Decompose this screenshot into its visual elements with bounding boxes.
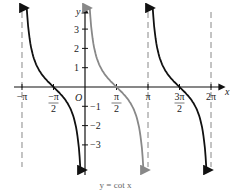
svg-text:−1: −1 — [90, 101, 101, 112]
svg-text:2: 2 — [177, 103, 182, 114]
cot-chart: −π−π2π2π3π22π321−1−2−3 x y O — [0, 0, 231, 194]
svg-text:3π: 3π — [174, 91, 184, 102]
svg-text:2: 2 — [51, 103, 56, 114]
origin-label: O — [75, 92, 82, 103]
svg-text:2: 2 — [114, 103, 119, 114]
svg-text:1: 1 — [74, 62, 79, 73]
svg-text:π: π — [145, 91, 150, 102]
svg-text:−2: −2 — [90, 120, 101, 131]
svg-text:2: 2 — [74, 43, 79, 54]
svg-text:π: π — [114, 91, 119, 102]
y-axis-label: y — [75, 6, 81, 17]
x-axis-label: x — [224, 86, 230, 97]
chart-caption: y = cot x — [0, 180, 231, 190]
svg-text:−π: −π — [48, 91, 59, 102]
svg-text:−π: −π — [17, 91, 28, 102]
svg-text:3: 3 — [74, 24, 79, 35]
svg-text:2π: 2π — [206, 91, 216, 102]
svg-text:−3: −3 — [90, 139, 101, 150]
